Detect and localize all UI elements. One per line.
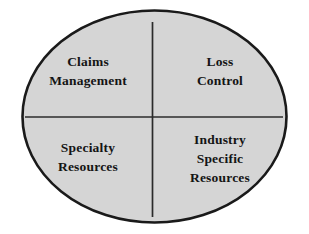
quadrant-ellipse-diagram [0,0,309,234]
diagram-canvas: Claims Management Loss Control Specialty… [0,0,309,234]
